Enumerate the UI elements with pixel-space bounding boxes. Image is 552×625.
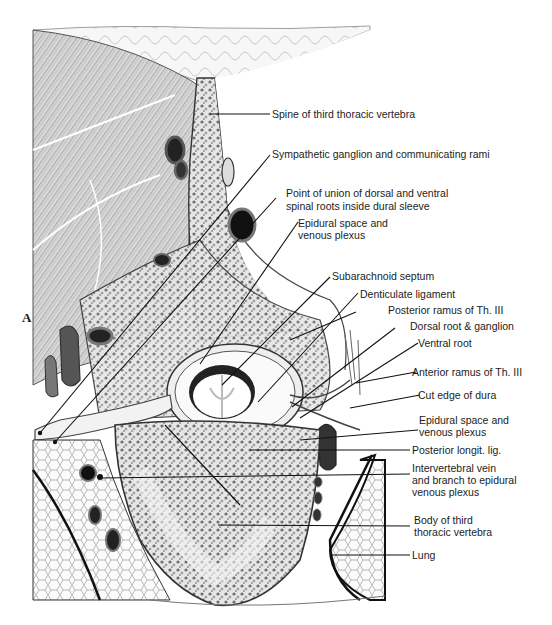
- label-point-of-union-line2: spinal roots inside dural sleeve: [286, 200, 430, 212]
- label-anterior-ramus: Anterior ramus of Th. III: [412, 366, 522, 378]
- label-posterior-longit-lig: Posterior longit. lig.: [412, 444, 501, 456]
- label-lung: Lung: [412, 549, 435, 561]
- label-vertebral-body-line2: thoracic vertebra: [414, 526, 492, 538]
- label-epidural-space-top-line2: venous plexus: [298, 229, 365, 241]
- label-posterior-ramus: Posterior ramus of Th. III: [388, 304, 503, 316]
- label-intervertebral-vein-line2: and branch to epidural: [412, 474, 517, 486]
- label-epidural-space-bottom-line2: venous plexus: [419, 426, 486, 438]
- label-spine-of-vertebra: Spine of third thoracic vertebra: [272, 108, 415, 120]
- label-denticulate-ligament: Denticulate ligament: [360, 288, 455, 300]
- anatomy-figure: A Spine of third thoracic vertebra Sympa…: [0, 0, 552, 625]
- label-sympathetic-ganglion: Sympathetic ganglion and communicating r…: [272, 148, 490, 160]
- label-intervertebral-vein-line1: Intervertebral vein: [412, 462, 496, 474]
- label-epidural-space-bottom-line1: Epidural space and: [419, 414, 509, 426]
- label-point-of-union-line1: Point of union of dorsal and ventral: [286, 187, 448, 199]
- label-intervertebral-vein-line3: venous plexus: [412, 486, 479, 498]
- label-subarachnoid-septum: Subarachnoid septum: [332, 270, 434, 282]
- panel-letter: A: [22, 310, 31, 326]
- label-cut-edge-of-dura: Cut edge of dura: [418, 389, 496, 401]
- label-epidural-space-top-line1: Epidural space and: [298, 217, 388, 229]
- label-ventral-root: Ventral root: [418, 337, 472, 349]
- label-dorsal-root-ganglion: Dorsal root & ganglion: [410, 320, 514, 332]
- label-vertebral-body-line1: Body of third: [414, 514, 473, 526]
